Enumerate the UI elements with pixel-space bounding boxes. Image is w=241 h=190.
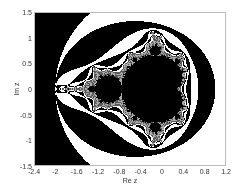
y-tick-label: -0.5 bbox=[20, 111, 32, 118]
x-tick-label: -1.6 bbox=[71, 168, 83, 175]
x-tick-label: 1.2 bbox=[221, 168, 231, 175]
y-axis-label: Im z bbox=[13, 82, 20, 95]
y-tick-label: -1 bbox=[26, 137, 32, 144]
x-axis-label: Re z bbox=[123, 177, 137, 184]
x-tick-label: -0.8 bbox=[113, 168, 125, 175]
x-tick-label: 0.4 bbox=[178, 168, 188, 175]
plot-frame bbox=[34, 12, 226, 166]
x-tick-label: -0.4 bbox=[135, 168, 147, 175]
y-tick-label: -1.5 bbox=[20, 163, 32, 170]
mandelbrot-figure: -2.4-2-1.6-1.2-0.8-0.400.40.81.2 1.510.5… bbox=[0, 0, 241, 190]
x-tick-label: 0 bbox=[160, 168, 164, 175]
y-tick-label: 1 bbox=[28, 34, 32, 41]
x-tick-label: -1.2 bbox=[92, 168, 104, 175]
x-tick-label: -2 bbox=[52, 168, 58, 175]
y-tick-label: 0.5 bbox=[22, 60, 32, 67]
x-tick-label: 0.8 bbox=[200, 168, 210, 175]
y-tick-label: 1.5 bbox=[22, 9, 32, 16]
y-tick-label: 0 bbox=[28, 86, 32, 93]
